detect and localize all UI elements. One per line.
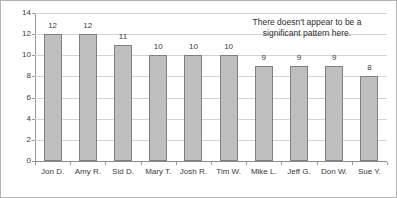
y-axis-tick-mark [32,34,35,35]
bar-value-label: 10 [154,43,163,51]
bar-value-label: 12 [83,22,92,30]
y-axis-tick-label: 10 [22,51,31,59]
x-axis-category-label: Amy R. [75,168,101,176]
y-axis-tick-mark [32,140,35,141]
x-axis-category-label: Jeff G. [287,168,310,176]
bar[interactable] [44,34,62,161]
gridline [35,13,387,14]
bar[interactable] [149,55,167,161]
bar-value-label: 11 [119,33,127,41]
x-axis-tick-mark [70,162,71,165]
x-axis-tick-mark [35,162,36,165]
y-axis-tick-mark [32,13,35,14]
y-axis-tick-mark [32,119,35,120]
x-axis-category-label: Tim W. [216,168,241,176]
bar-value-label: 8 [367,64,371,72]
bar-value-label: 9 [332,54,336,62]
y-axis-tick-label: 4 [27,115,31,123]
x-axis-category-label: Jon D. [41,168,64,176]
y-axis-tick-mark [32,98,35,99]
y-axis-tick-mark [32,55,35,56]
y-axis-tick-label: 6 [27,94,31,102]
x-axis-tick-mark [317,162,318,165]
x-axis-tick-mark [141,162,142,165]
bar-value-label: 10 [224,43,233,51]
x-axis-tick-mark [246,162,247,165]
bar[interactable] [290,66,308,161]
y-axis-tick-label: 2 [27,136,31,144]
x-axis-tick-mark [352,162,353,165]
bar-value-label: 12 [48,22,57,30]
annotation-pattern-note: There doesn't appear to be a significant… [229,17,385,40]
x-axis-category-label: Mike L. [251,168,277,176]
x-axis-category-label: Sue Y. [358,168,381,176]
x-axis-category-label: Don W. [321,168,347,176]
bar-value-label: 9 [297,54,301,62]
bar[interactable] [220,55,238,161]
y-axis-tick-label: 14 [22,9,31,17]
bar-chart: 02468101214 1212111010109998 There doesn… [0,0,397,198]
x-axis-category-label: Mary T. [145,168,171,176]
x-axis-tick-mark [211,162,212,165]
bar[interactable] [255,66,273,161]
bar-value-label: 10 [189,43,198,51]
bar[interactable] [114,45,132,161]
x-axis-tick-mark [176,162,177,165]
bar[interactable] [79,34,97,161]
x-axis-category-label: Sid D. [112,168,134,176]
x-axis-tick-mark [105,162,106,165]
y-axis-tick-mark [32,76,35,77]
x-axis-tick-mark [281,162,282,165]
bar-value-label: 9 [262,54,266,62]
annotation-line-1: There doesn't appear to be a [229,17,385,28]
bar[interactable] [360,76,378,161]
x-axis-category-label: Josh R. [180,168,207,176]
y-axis-tick-label: 0 [27,157,31,165]
y-axis-tick-label: 8 [27,72,31,80]
x-axis-tick-mark [387,162,388,165]
bar[interactable] [325,66,343,161]
y-axis-label-group: 02468101214 [1,1,31,198]
annotation-line-2: significant pattern here. [229,28,385,39]
y-axis-tick-label: 12 [22,30,31,38]
bar[interactable] [184,55,202,161]
